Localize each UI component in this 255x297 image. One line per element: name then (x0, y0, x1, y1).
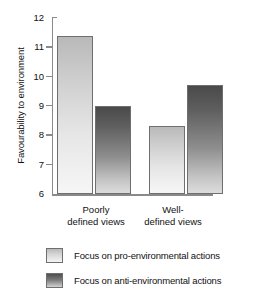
bar-well-anti-environmental (187, 85, 223, 194)
chart-legend: Focus on pro-environmental actions Focus… (0, 244, 255, 297)
legend-label-anti-environmental: Focus on anti-environmental actions (74, 275, 221, 286)
x-category-well-line1: Well- (128, 204, 218, 216)
plot-area: Favourability to environment 12 11 10 9 … (0, 0, 255, 215)
x-category-label-well: Well- defined views (128, 204, 218, 227)
bar-well-pro-environmental (149, 126, 185, 194)
bar-poorly-pro-environmental (57, 36, 93, 194)
legend-swatch-anti-environmental (46, 273, 63, 288)
legend-item-anti-environmental: Focus on anti-environmental actions (46, 271, 221, 289)
legend-swatch-pro-environmental (46, 248, 63, 263)
bar-chart-figure: Favourability to environment 12 11 10 9 … (0, 0, 255, 297)
legend-item-pro-environmental: Focus on pro-environmental actions (46, 246, 220, 264)
legend-label-pro-environmental: Focus on pro-environmental actions (74, 250, 220, 261)
bar-poorly-anti-environmental (95, 106, 131, 195)
bars-layer (0, 0, 255, 215)
x-category-well-line2: defined views (128, 216, 218, 228)
